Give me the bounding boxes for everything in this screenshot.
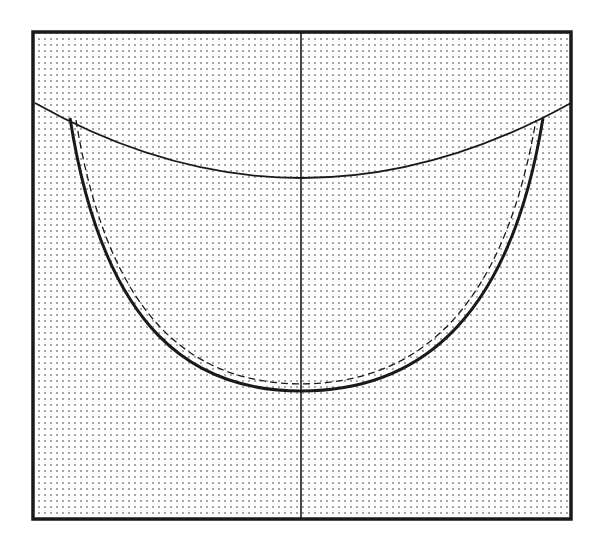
diagram (0, 0, 594, 538)
stipple-fill (34, 33, 571, 519)
